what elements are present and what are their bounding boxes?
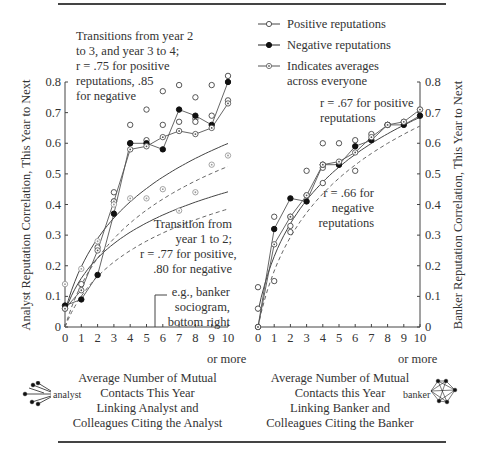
svg-text:0: 0 xyxy=(62,331,68,345)
legend-average-1: Indicates averages xyxy=(287,59,379,74)
svg-text:5: 5 xyxy=(143,331,149,345)
svg-text:1: 1 xyxy=(78,331,84,345)
positive-point xyxy=(209,82,214,87)
svg-text:10: 10 xyxy=(222,331,235,345)
negative-point xyxy=(95,272,100,277)
negative-point xyxy=(272,226,277,231)
right-annotation-negative: r = .66 for negative reputations xyxy=(318,186,374,231)
positive-point xyxy=(128,122,133,127)
svg-text:9: 9 xyxy=(401,331,407,345)
positive-point xyxy=(193,119,198,124)
negative-point xyxy=(304,199,309,204)
svg-text:6: 6 xyxy=(352,331,358,345)
svg-text:0: 0 xyxy=(55,320,61,334)
svg-text:2: 2 xyxy=(287,331,293,345)
svg-text:10: 10 xyxy=(414,331,427,345)
negative-point xyxy=(288,196,293,201)
positive-point xyxy=(160,122,165,127)
svg-text:8: 8 xyxy=(384,331,390,345)
negative-point xyxy=(111,211,116,216)
svg-text:0.3: 0.3 xyxy=(425,228,441,242)
negative-point xyxy=(353,144,358,149)
positive-point xyxy=(193,95,198,100)
svg-text:0.1: 0.1 xyxy=(425,289,441,303)
svg-text:8: 8 xyxy=(192,331,198,345)
analyst-sociogram-icon xyxy=(22,381,54,407)
positive-point xyxy=(288,223,293,228)
positive-point xyxy=(353,168,358,173)
svg-text:0.5: 0.5 xyxy=(45,167,61,181)
banker-sociogram-icon xyxy=(429,377,459,407)
positive-point xyxy=(111,190,116,195)
svg-text:0.6: 0.6 xyxy=(45,136,61,150)
positive-point xyxy=(272,214,277,219)
positive-point xyxy=(272,278,277,283)
banker-icon-label: banker xyxy=(403,387,430,402)
svg-text:3: 3 xyxy=(111,331,117,345)
svg-text:0.2: 0.2 xyxy=(45,259,61,273)
positive-point xyxy=(79,281,84,286)
negative-point xyxy=(225,79,230,84)
right-annotation-positive: r = .67 for positive reputations xyxy=(320,96,414,126)
negative-point xyxy=(160,147,165,152)
legend-negative: Negative reputations xyxy=(287,38,391,53)
positive-point xyxy=(176,119,181,124)
svg-text:0.4: 0.4 xyxy=(425,198,441,212)
svg-text:1: 1 xyxy=(271,331,277,345)
negative-point xyxy=(417,113,422,118)
positive-point xyxy=(320,141,325,146)
svg-text:0.3: 0.3 xyxy=(45,228,61,242)
svg-text:0.7: 0.7 xyxy=(425,106,441,120)
positive-point xyxy=(320,180,325,185)
negative-point xyxy=(176,107,181,112)
left-x-or-more: or more xyxy=(207,352,246,367)
legend-markers xyxy=(257,17,281,87)
svg-text:0.5: 0.5 xyxy=(425,167,441,181)
positive-point xyxy=(255,284,260,289)
svg-text:0.6: 0.6 xyxy=(425,136,441,150)
negative-point xyxy=(193,113,198,118)
left-annotation-top: Transitions from year 2 to 3, and year 3… xyxy=(76,29,193,104)
svg-text:7: 7 xyxy=(176,331,182,345)
svg-text:3: 3 xyxy=(303,331,309,345)
left-annotation-mid: Transition from year 1 to 2; r = .77 for… xyxy=(140,217,232,277)
svg-text:4: 4 xyxy=(127,331,134,345)
positive-point xyxy=(255,306,260,311)
analyst-icon-label: analyst xyxy=(53,387,81,402)
svg-text:0.8: 0.8 xyxy=(45,75,61,89)
positive-point xyxy=(144,107,149,112)
legend-average-2: across everyone xyxy=(287,74,367,89)
svg-text:0.1: 0.1 xyxy=(45,289,61,303)
positive-point xyxy=(304,168,309,173)
right-x-axis-label: Average Number of Mutual Contacts this Y… xyxy=(260,371,420,431)
positive-point xyxy=(225,73,230,78)
svg-text:4: 4 xyxy=(320,331,327,345)
right-y-axis-label: Banker Reputation Correlation, This Year… xyxy=(451,81,466,329)
svg-text:2: 2 xyxy=(94,331,100,345)
legend-positive: Positive reputations xyxy=(287,17,386,32)
left-y-axis-label: Analyst Reputation Correlation, This Yea… xyxy=(19,79,34,330)
svg-text:0.7: 0.7 xyxy=(45,106,61,120)
svg-text:5: 5 xyxy=(336,331,342,345)
positive-point xyxy=(336,141,341,146)
left-x-axis-label: Average Number of Mutual Contacts This Y… xyxy=(70,371,225,431)
svg-text:0.4: 0.4 xyxy=(45,198,61,212)
negative-point xyxy=(128,141,133,146)
svg-text:0.8: 0.8 xyxy=(425,75,441,89)
svg-text:6: 6 xyxy=(160,331,166,345)
svg-text:9: 9 xyxy=(209,331,215,345)
svg-text:0.2: 0.2 xyxy=(425,259,441,273)
right-x-or-more: or more xyxy=(398,352,437,367)
positive-point xyxy=(353,137,358,142)
positive-point xyxy=(288,229,293,234)
svg-text:7: 7 xyxy=(368,331,374,345)
negative-point xyxy=(79,297,84,302)
positive-point xyxy=(209,113,214,118)
left-annotation-eg: e.g., banker sociogram, bottom right xyxy=(146,285,230,330)
svg-text:0: 0 xyxy=(255,331,261,345)
